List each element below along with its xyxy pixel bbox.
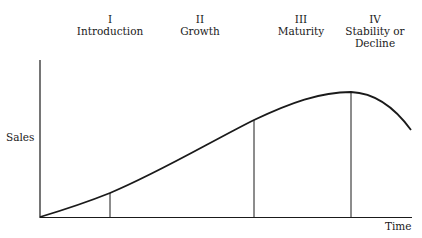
life-cycle-chart xyxy=(0,0,422,238)
sales-curve xyxy=(40,92,411,217)
